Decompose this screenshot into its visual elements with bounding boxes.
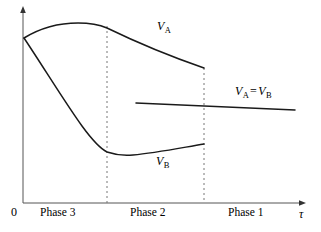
curve-label-vb-symbol: V bbox=[156, 154, 163, 168]
curve-va-equals-vb bbox=[136, 103, 295, 110]
curve-va bbox=[24, 23, 204, 68]
curve-label-va: VA bbox=[157, 20, 170, 32]
va-eq-symbol-left: V bbox=[235, 84, 242, 98]
curve-label-vb-subscript: B bbox=[164, 160, 170, 170]
va-eq-subscript-left: A bbox=[243, 90, 249, 100]
curve-label-vb: VB bbox=[156, 155, 169, 167]
equals-sign: = bbox=[248, 84, 258, 98]
phase-label-3: Phase 3 bbox=[40, 207, 75, 219]
curve-label-va-equals-vb: VA=VB bbox=[235, 85, 271, 97]
va-eq-symbol-right: V bbox=[258, 84, 265, 98]
phase-diagram-figure: 0 τ Phase 3 Phase 2 Phase 1 VA VB VA=VB bbox=[0, 0, 321, 232]
curve-label-va-symbol: V bbox=[157, 19, 164, 33]
va-eq-subscript-right: B bbox=[266, 90, 272, 100]
curve-vb bbox=[24, 38, 204, 155]
x-axis-arrowhead bbox=[299, 200, 306, 206]
y-axis-arrowhead bbox=[20, 6, 26, 13]
curve-label-va-subscript: A bbox=[165, 25, 171, 35]
x-axis-label-tau: τ bbox=[299, 208, 303, 220]
phase-label-2: Phase 2 bbox=[130, 207, 165, 219]
phase-label-1: Phase 1 bbox=[228, 207, 263, 219]
diagram-canvas bbox=[0, 0, 321, 232]
origin-label: 0 bbox=[11, 206, 17, 218]
